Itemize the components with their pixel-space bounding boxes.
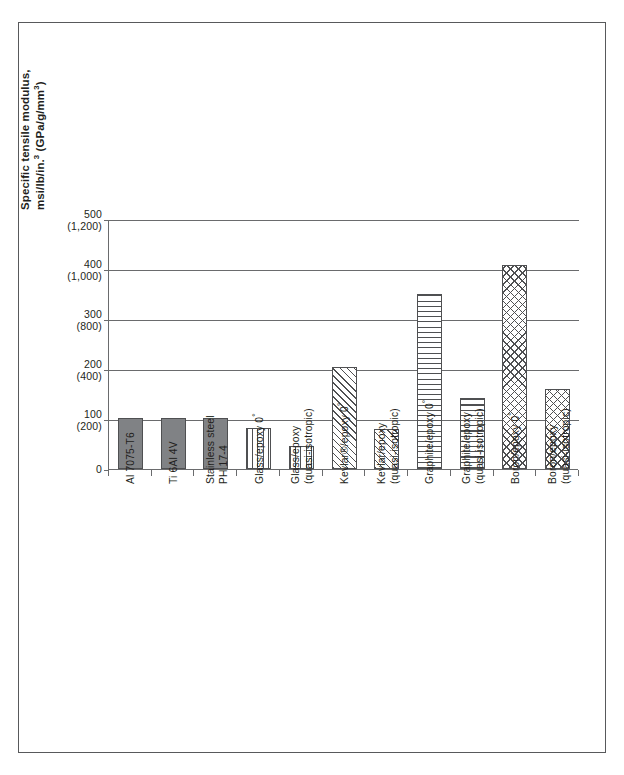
y-axis-tick-minor: (800) [40, 321, 102, 333]
x-axis-label-line1: Boron/epoxy [547, 425, 558, 484]
x-axis-tick [193, 470, 194, 476]
degree-symbol: ° [506, 412, 516, 416]
x-axis-category-label: Ti 6Al 4V [168, 354, 181, 484]
x-axis-tick [236, 470, 237, 476]
x-axis-label-line1: Graphite/epoxy 0° [424, 400, 435, 484]
x-axis-label-line1: Glass/epoxy [290, 426, 301, 484]
y-axis-tick-label: 200(400) [40, 359, 102, 382]
x-axis-label-line1: Stainless steel [205, 415, 216, 484]
degree-symbol: ° [421, 400, 431, 404]
y-axis-tick-label: 0 [40, 464, 102, 476]
y-axis-tick-label: 300(800) [40, 309, 102, 332]
x-axis-label-line1: Kevlar/epoxy [376, 423, 387, 484]
x-axis-tick [450, 470, 451, 476]
x-axis-category-label: Boron/epoxy 0° [510, 354, 523, 484]
x-axis-category-label: Glass/epoxy 0° [254, 354, 267, 484]
degree-symbol: ° [250, 413, 260, 417]
x-axis-label-line1: Kevlar®/epoxy 0° [339, 402, 350, 484]
x-axis-label-line1: Glass/epoxy 0° [254, 413, 265, 484]
x-axis-category-label: Graphite/epoxy 0° [424, 354, 437, 484]
y-axis-tick-major: 400 [40, 259, 102, 271]
x-axis-tick [493, 470, 494, 476]
y-axis-tick-major: 200 [40, 359, 102, 371]
y-axis-tick-major: 0 [40, 464, 102, 476]
x-axis-category-label: Al 7075-T6 [125, 354, 138, 484]
x-axis-category-label: Kevlar®/epoxy 0° [339, 354, 352, 484]
x-axis-tick [407, 470, 408, 476]
y-axis-tick [104, 220, 109, 221]
x-axis-tick [578, 470, 579, 476]
x-axis-category-label: Glass/epoxy(quasi-isotropic) [290, 354, 315, 484]
y-axis-tick [104, 270, 109, 271]
y-axis-tick-minor: (1,200) [40, 221, 102, 233]
y-axis-tick-major: 500 [40, 209, 102, 221]
degree-symbol: ° [336, 402, 346, 406]
y-axis-tick [104, 420, 109, 421]
y-axis-tick-label: 100(200) [40, 409, 102, 432]
y-axis-tick-minor: (200) [40, 421, 102, 433]
x-axis-label-line1: Graphite/epoxy [461, 412, 472, 484]
y-axis-tick-major: 100 [40, 409, 102, 421]
x-axis-category-label: Stainless steelPH 17-4 [205, 354, 230, 484]
x-axis-tick [535, 470, 536, 476]
y-axis-tick [104, 320, 109, 321]
chart-page: Specific tensile modulus, msi/lb/in.3 (G… [0, 0, 624, 775]
x-axis-tick [151, 470, 152, 476]
x-axis-tick [279, 470, 280, 476]
x-axis-label-line2: (quasi-isotropic) [303, 354, 316, 484]
y-axis-tick-minor: (1,000) [40, 271, 102, 283]
chart-area: 500(1,200)400(1,000)300(800)200(400)100(… [0, 0, 624, 775]
x-axis-label-line2: (quasi-isotropic) [388, 354, 401, 484]
y-axis-tick-major: 300 [40, 309, 102, 321]
x-axis-category-label: Kevlar/epoxy(quasi-isotropic) [376, 354, 401, 484]
x-axis-label-line1: Ti 6Al 4V [168, 441, 179, 484]
x-axis-label-line2: (quasi-isotropic) [474, 354, 487, 484]
x-axis-label-line1: Boron/epoxy 0° [510, 412, 521, 484]
y-axis-tick-minor: (400) [40, 371, 102, 383]
y-axis-tick-label: 400(1,000) [40, 259, 102, 282]
y-axis-tick [104, 370, 109, 371]
x-axis-category-label: Graphite/epoxy(quasi-isotropic) [461, 354, 486, 484]
x-axis-category-label: Boron/epoxy(quasi-isotropic) [547, 354, 572, 484]
x-axis-label-line2: PH 17-4 [217, 354, 230, 484]
x-axis-tick [108, 470, 109, 476]
gridline [109, 220, 579, 221]
y-axis-tick-label: 500(1,200) [40, 209, 102, 232]
x-axis-tick [364, 470, 365, 476]
x-axis-tick [322, 470, 323, 476]
x-axis-label-line2: (quasi-isotropic) [559, 354, 572, 484]
x-axis-label-line1: Al 7075-T6 [125, 432, 136, 484]
